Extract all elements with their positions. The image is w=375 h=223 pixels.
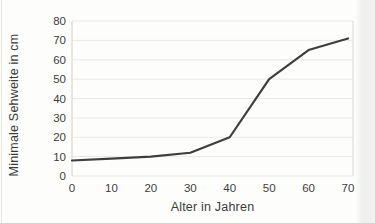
x-tick-label: 60 xyxy=(302,182,315,194)
x-tick-label: 10 xyxy=(105,182,118,194)
y-tick-label: 0 xyxy=(60,170,66,182)
x-tick-label: 0 xyxy=(69,182,75,194)
y-tick-label: 10 xyxy=(53,151,66,163)
y-tick-label: 50 xyxy=(53,73,66,85)
y-tick-label: 60 xyxy=(53,54,66,66)
x-tick-label: 70 xyxy=(342,182,355,194)
x-tick-label: 20 xyxy=(144,182,157,194)
line-chart-svg: 01020304050607080010203040506070 xyxy=(0,0,375,223)
line-chart-figure: 01020304050607080010203040506070 Minimal… xyxy=(0,0,375,223)
x-tick-label: 40 xyxy=(223,182,236,194)
series-line xyxy=(72,38,348,160)
x-tick-label: 50 xyxy=(263,182,276,194)
x-tick-label: 30 xyxy=(184,182,197,194)
y-tick-label: 30 xyxy=(53,112,66,124)
y-tick-label: 70 xyxy=(53,34,66,46)
y-tick-label: 20 xyxy=(53,131,66,143)
x-axis-title: Alter in Jahren xyxy=(72,200,353,214)
y-tick-label: 80 xyxy=(53,15,66,27)
y-axis-title: Minimale Sehweite in cm xyxy=(7,26,21,184)
y-tick-label: 40 xyxy=(53,93,66,105)
